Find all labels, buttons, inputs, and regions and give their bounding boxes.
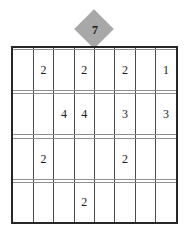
grid-cell[interactable] <box>135 182 155 222</box>
grid-cell[interactable] <box>54 138 74 179</box>
grid-cell[interactable] <box>95 138 115 179</box>
puzzle-grid-body: 22214433222 <box>13 48 176 222</box>
grid-cell[interactable]: 4 <box>54 94 74 135</box>
grid-cell[interactable] <box>135 50 155 91</box>
grid-cell[interactable]: 2 <box>33 138 53 179</box>
diamond-badge-value: 7 <box>75 10 115 50</box>
grid-cell-value: 2 <box>115 64 134 76</box>
grid-cell-value: 2 <box>75 64 94 76</box>
grid-row: 22 <box>13 138 176 179</box>
puzzle-grid-table: 22214433222 <box>13 48 176 222</box>
grid-cell[interactable]: 2 <box>74 182 94 222</box>
grid-cell[interactable]: 2 <box>33 50 53 91</box>
grid-cell[interactable]: 2 <box>115 138 135 179</box>
diamond-badge: 7 <box>75 10 115 50</box>
grid-cell[interactable] <box>13 182 33 222</box>
grid-cell[interactable] <box>54 182 74 222</box>
grid-cell[interactable] <box>13 94 33 135</box>
grid-row: 2221 <box>13 50 176 91</box>
grid-cell[interactable] <box>13 50 33 91</box>
grid-cell[interactable] <box>95 50 115 91</box>
grid-cell[interactable] <box>54 50 74 91</box>
grid-cell[interactable]: 2 <box>115 50 135 91</box>
grid-cell[interactable] <box>95 94 115 135</box>
grid-row: 4433 <box>13 94 176 135</box>
grid-cell[interactable] <box>135 138 155 179</box>
grid-cell[interactable] <box>33 182 53 222</box>
grid-cell[interactable] <box>115 182 135 222</box>
grid-cell[interactable]: 2 <box>74 50 94 91</box>
grid-cell-value: 2 <box>115 153 134 165</box>
grid-cell-value: 2 <box>34 64 53 76</box>
grid-cell-value: 4 <box>54 108 73 120</box>
grid-cell[interactable]: 3 <box>115 94 135 135</box>
grid-cell[interactable] <box>13 138 33 179</box>
puzzle-grid[interactable]: 22214433222 <box>11 46 178 224</box>
grid-row: 2 <box>13 182 176 222</box>
grid-cell[interactable] <box>156 182 176 222</box>
grid-cell-value: 3 <box>115 108 134 120</box>
grid-cell[interactable] <box>74 138 94 179</box>
grid-cell[interactable]: 4 <box>74 94 94 135</box>
grid-cell[interactable] <box>33 94 53 135</box>
grid-cell[interactable] <box>135 94 155 135</box>
grid-cell-value: 2 <box>75 196 94 208</box>
grid-cell-value: 1 <box>156 64 176 76</box>
puzzle-container: 7 22214433222 <box>0 0 189 231</box>
grid-cell-value: 4 <box>75 108 94 120</box>
grid-cell-value: 3 <box>156 108 176 120</box>
grid-cell[interactable] <box>156 138 176 179</box>
grid-cell[interactable]: 1 <box>156 50 176 91</box>
grid-cell[interactable]: 3 <box>156 94 176 135</box>
grid-cell[interactable] <box>95 182 115 222</box>
grid-cell-value: 2 <box>34 153 53 165</box>
